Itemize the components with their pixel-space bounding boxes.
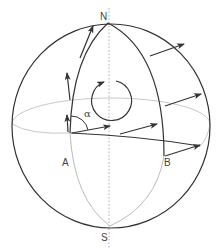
- equator-front-dark: [71, 133, 200, 146]
- rotation-arrow: [92, 81, 132, 121]
- equator-front-left: [12, 124, 71, 133]
- label-north: N: [100, 11, 107, 22]
- vector-equator-a: [72, 126, 110, 133]
- meridian-b-lower: [110, 156, 164, 226]
- vector-equator-b: [165, 145, 200, 156]
- vector-meridian-b-lower: [165, 94, 201, 106]
- vector-near-a-2: [67, 73, 70, 100]
- label-point-b: B: [164, 157, 171, 168]
- meridian-a-lower: [70, 133, 110, 226]
- sphere-outline: [12, 24, 210, 228]
- label-angle-alpha: α: [84, 108, 91, 119]
- vector-meridian-b-upper: [150, 44, 184, 56]
- label-south: S: [101, 232, 108, 243]
- label-point-a: A: [62, 157, 69, 168]
- vector-near-a-1: [67, 115, 68, 132]
- sphere-diagram: N S A B α: [0, 0, 224, 252]
- vector-equator-mid: [120, 124, 157, 134]
